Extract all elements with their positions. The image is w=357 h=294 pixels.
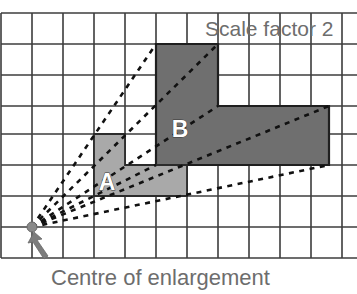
diagram-canvas: Scale factor 2 A B Centre of enlargement [0, 0, 357, 294]
enlargement-diagram: Scale factor 2 A B Centre of enlargement [0, 0, 357, 294]
centre-pointer-arrow-icon [28, 232, 48, 259]
shape-a-label: A [99, 169, 116, 195]
scale-factor-title: Scale factor 2 [205, 17, 333, 40]
centre-point-dot [27, 222, 37, 232]
shape-b-label: B [172, 116, 189, 142]
shape-b-polygon [156, 44, 329, 165]
centre-of-enlargement-caption: Centre of enlargement [51, 265, 270, 290]
